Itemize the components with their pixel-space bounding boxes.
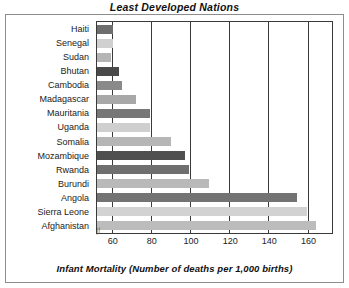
x-tick-label: 60 [108,236,118,246]
bar-row [97,191,332,205]
bar-row [97,163,332,177]
chart-root: Least Developed Nations HaitiSenegalSuda… [0,0,349,288]
y-axis-label-text: Mauritania [47,108,89,118]
y-axis-label-text: Cambodia [48,80,89,90]
y-axis-label-text: Mozambique [37,151,89,161]
bar [97,151,185,160]
y-axis-label-text: Uganda [57,122,89,132]
y-axis-label-text: Senegal [56,38,89,48]
x-tick-label: 100 [183,236,198,246]
bar [97,221,316,230]
bar [97,165,189,174]
y-axis-label-text: Haiti [71,24,89,34]
bar [97,123,150,132]
chart-title: Least Developed Nations [0,1,349,13]
bar-row [97,149,332,163]
y-axis-label-text: Rwanda [56,165,89,175]
bar [97,137,171,146]
bar [97,179,209,188]
y-axis-label-text: Afghanistan [41,221,89,231]
y-axis-label: Uganda [0,120,93,134]
y-axis-label-text: Somalia [56,137,89,147]
bar-row [97,106,332,120]
y-axis-label: Burundi [0,177,93,191]
y-axis-label: Rwanda [0,163,93,177]
y-axis-label: Bhutan [0,64,93,78]
bar-row [97,64,332,78]
x-tick-label: 120 [223,236,238,246]
bar-row [97,177,332,191]
y-axis-label: Afghanistan [0,219,93,233]
y-axis-label-text: Sierra Leone [37,207,89,217]
bar-row [97,36,332,50]
y-axis-label: Mozambique [0,149,93,163]
y-axis-label: Cambodia [0,78,93,92]
y-axis-label: Sudan [0,50,93,64]
bar [97,95,136,104]
bar-row [97,78,332,92]
y-axis-label: Haiti [0,22,93,36]
y-axis-category-labels: HaitiSenegalSudanBhutanCambodiaMadagasca… [0,22,93,233]
bar [97,193,297,202]
bar-row [97,120,332,134]
bar-row [97,219,332,233]
bar [97,67,119,76]
bar [97,53,111,62]
x-tick-label: 80 [147,236,157,246]
x-axis-tick-labels: 6080100120140160 [0,236,349,250]
y-axis-label: Somalia [0,135,93,149]
y-axis-label-text: Sudan [63,52,89,62]
bar-row [97,205,332,219]
y-axis-label-text: Bhutan [60,66,89,76]
y-axis-label-text: Madagascar [39,94,89,104]
bar [97,39,113,48]
y-axis-label: Madagascar [0,92,93,106]
y-axis-label: Sierra Leone [0,205,93,219]
y-axis-label: Mauritania [0,106,93,120]
bar-row [97,92,332,106]
y-axis-label-text: Burundi [58,179,89,189]
bar-series [97,22,332,233]
bar [97,81,122,90]
bar [97,207,307,216]
bar [97,25,113,34]
x-tick-label: 160 [301,236,316,246]
bar-row [97,50,332,64]
y-axis-label-text: Angola [61,193,89,203]
y-axis-label: Senegal [0,36,93,50]
x-tick-label: 140 [262,236,277,246]
bar [97,109,150,118]
y-axis-label: Angola [0,191,93,205]
x-axis-title: Infant Mortality (Number of deaths per 1… [5,263,344,274]
bar-row [97,135,332,149]
bar-row [97,22,332,36]
